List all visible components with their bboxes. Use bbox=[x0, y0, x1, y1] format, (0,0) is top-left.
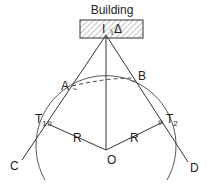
dashed-line-ab bbox=[72, 78, 134, 86]
label-r-left: R bbox=[73, 131, 82, 145]
label-delta: Δ bbox=[114, 22, 122, 36]
building-block bbox=[80, 20, 143, 38]
angle-mark-a bbox=[73, 88, 77, 89]
building-title: Building bbox=[91, 3, 134, 17]
label-a: A bbox=[61, 79, 69, 93]
curve-diagram: Building I Δ A B T1 T2 R R O C D bbox=[0, 0, 210, 185]
label-i: I bbox=[102, 22, 105, 36]
label-t1: T1 bbox=[35, 112, 47, 128]
label-o: O bbox=[107, 153, 116, 167]
label-t2: T2 bbox=[166, 112, 178, 128]
label-r-right: R bbox=[130, 131, 139, 145]
tangent-line-right bbox=[106, 35, 188, 162]
label-d: D bbox=[190, 161, 199, 175]
label-b: B bbox=[138, 69, 146, 83]
tangent-line-left bbox=[22, 35, 106, 160]
label-c: C bbox=[10, 159, 19, 173]
